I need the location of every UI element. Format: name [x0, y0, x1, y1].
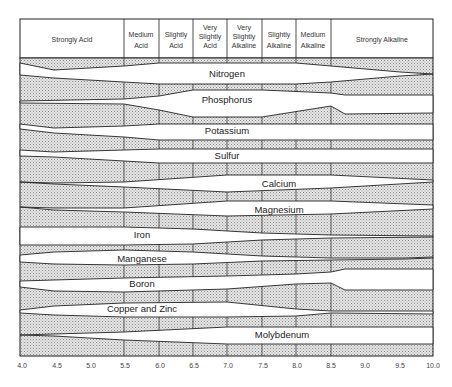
tick-9-0: 9.0 — [360, 362, 370, 369]
header-slightly-acid-2: Acid — [169, 42, 183, 49]
label-copper-zinc: Copper and Zinc — [107, 303, 177, 314]
label-iron: Iron — [134, 229, 150, 240]
header-strongly-acid: Strongly Acid — [52, 36, 93, 44]
header-slightly-acid-1: Slightly — [165, 31, 188, 39]
tick-5-0: 5.0 — [86, 362, 96, 369]
tick-4-5: 4.5 — [52, 362, 62, 369]
label-molybdenum: Molybdenum — [255, 329, 309, 340]
header-medium-acid-1: Medium — [129, 31, 154, 38]
tick-9-5: 9.5 — [395, 362, 405, 369]
header-medium-alk-1: Medium — [301, 31, 326, 38]
label-sulfur: Sulfur — [215, 150, 240, 161]
header-vsalk-3: Alkaline — [232, 42, 257, 49]
tick-6-0: 6.0 — [155, 362, 165, 369]
tick-6-5: 6.5 — [189, 362, 199, 369]
label-potassium: Potassium — [205, 125, 249, 136]
header-vsa-2: Slightly — [199, 33, 222, 41]
nutrient-availability-chart: Strongly Acid Medium Acid Slightly Acid … — [0, 0, 452, 387]
label-manganese: Manganese — [117, 253, 167, 264]
header-vsa-3: Acid — [203, 42, 217, 49]
header-slightly-alk-2: Alkaline — [267, 42, 292, 49]
label-boron: Boron — [129, 278, 154, 289]
tick-5-5: 5.5 — [120, 362, 130, 369]
tick-10-0: 10.0 — [426, 362, 440, 369]
header-vsa-1: Very — [203, 24, 218, 32]
tick-4-0: 4.0 — [17, 362, 27, 369]
header-medium-acid-2: Acid — [134, 42, 148, 49]
label-phosphorus: Phosphorus — [202, 94, 253, 105]
tick-8-5: 8.5 — [326, 362, 336, 369]
label-nitrogen: Nitrogen — [209, 68, 245, 79]
tick-7-0: 7.0 — [223, 362, 233, 369]
header-strongly-alkaline: Strongly Alkaline — [356, 36, 408, 44]
label-magnesium: Magnesium — [254, 204, 303, 215]
header-slightly-alk-1: Slightly — [268, 31, 291, 39]
header-medium-alk-2: Alkaline — [301, 42, 326, 49]
label-calcium: Calcium — [262, 178, 296, 189]
tick-8-0: 8.0 — [292, 362, 302, 369]
header-row: Strongly Acid Medium Acid Slightly Acid … — [20, 19, 433, 58]
tick-7-5: 7.5 — [258, 362, 268, 369]
x-axis: 4.0 4.5 5.0 5.5 6.0 6.5 7.0 7.5 8.0 8.5 … — [17, 362, 440, 369]
header-vsalk-1: Very — [237, 24, 252, 32]
header-vsalk-2: Slightly — [233, 33, 256, 41]
